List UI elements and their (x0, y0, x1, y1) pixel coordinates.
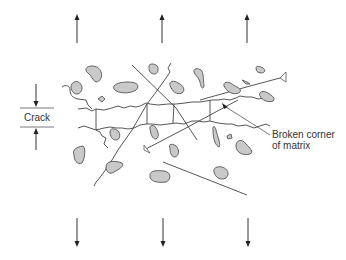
particle (260, 92, 274, 102)
fibre (163, 162, 247, 195)
load-arrow-up (160, 14, 165, 43)
particle (224, 82, 241, 94)
particle (110, 129, 120, 140)
particle (106, 161, 123, 173)
crack-bridging-diagram: Crack Broken corner of matrix (0, 0, 346, 260)
particle (213, 127, 220, 147)
upper-crack-face (78, 96, 272, 111)
broken-corner-label-line1: Broken corner (272, 129, 335, 140)
particle (236, 140, 252, 154)
top-load-arrows (75, 14, 250, 43)
particle (86, 66, 102, 82)
lower-crack-face (78, 121, 270, 130)
broken-corner-label-line2: of matrix (272, 140, 310, 151)
load-arrow-down (75, 218, 80, 247)
particle (256, 67, 265, 74)
particle (242, 80, 250, 84)
load-arrow-up (245, 14, 250, 43)
particle (194, 69, 204, 88)
fibre-tip (144, 145, 150, 153)
particle (150, 125, 158, 139)
load-arrow-down (246, 218, 251, 247)
bottom-load-arrows (75, 218, 251, 247)
particle (169, 144, 178, 157)
particle (149, 64, 158, 74)
particle (71, 81, 82, 94)
particle (170, 81, 184, 93)
particle (150, 171, 170, 183)
bridging-ligament (173, 104, 174, 123)
load-arrow-up (75, 14, 80, 43)
fibre-tip (280, 72, 286, 82)
particle (227, 134, 232, 139)
crack-dimension: Crack (20, 84, 54, 150)
fibre (250, 78, 280, 86)
particle (214, 167, 228, 179)
crack-faces (62, 86, 272, 148)
load-arrow-down (161, 218, 166, 247)
crack-label: Crack (24, 112, 51, 123)
particle (98, 96, 105, 102)
particle (73, 146, 84, 163)
particle (114, 82, 138, 93)
crack-tip-left-lower (96, 130, 108, 148)
